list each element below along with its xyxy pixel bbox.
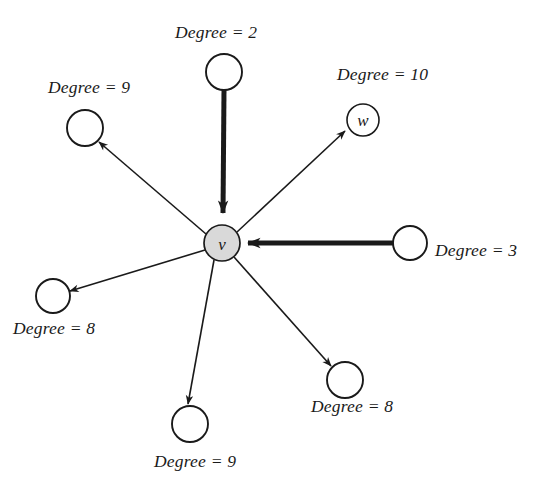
node-lower-left[interactable] <box>36 279 70 313</box>
edge-center-to-lower-right <box>234 257 331 366</box>
degree-label-top: Degree = 2 <box>175 22 257 43</box>
node-right[interactable] <box>393 226 427 260</box>
degree-label-lower-left: Degree = 8 <box>13 318 95 339</box>
node-layer: w v <box>36 54 427 442</box>
edge-top-to-center <box>223 90 224 213</box>
node-center-v-label: v <box>218 235 226 254</box>
degree-label-right: Degree = 3 <box>435 240 517 261</box>
degree-label-upper-right: Degree = 10 <box>337 64 428 85</box>
node-top[interactable] <box>206 54 242 90</box>
edge-center-to-w <box>237 131 345 232</box>
edge-center-to-bottom <box>188 260 214 404</box>
node-bottom[interactable] <box>172 406 208 442</box>
graph-figure: w v Degree = 2 Degree = 10 Degree = 9 De… <box>0 0 535 497</box>
degree-label-upper-left: Degree = 9 <box>48 77 130 98</box>
edge-center-to-lower-left <box>70 250 205 291</box>
edge-center-to-upper-left <box>99 142 206 234</box>
node-lower-right[interactable] <box>327 362 363 398</box>
degree-label-bottom: Degree = 9 <box>154 451 236 472</box>
node-upper-left[interactable] <box>67 110 103 146</box>
node-w-label: w <box>357 111 369 130</box>
degree-label-lower-right: Degree = 8 <box>311 396 393 417</box>
